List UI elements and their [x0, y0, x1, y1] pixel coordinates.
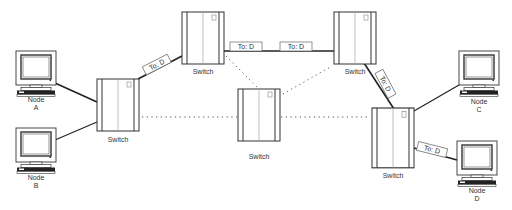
node-a-label-line2: A	[34, 104, 39, 111]
switch-top-right-label: Switch	[345, 68, 366, 75]
switch-left[interactable]: Switch	[97, 79, 139, 143]
node-c[interactable]: Node C	[459, 51, 499, 113]
computer-icon	[457, 141, 497, 187]
node-a-label-line1: Node	[28, 96, 45, 103]
switch-icon	[372, 108, 414, 168]
link-nodeA-switch-left	[55, 83, 97, 102]
packet-tag-2: To: D	[230, 42, 262, 51]
switch-icon	[238, 89, 280, 141]
node-c-label-line1: Node	[471, 98, 488, 105]
switch-bottom-right-label: Switch	[383, 172, 404, 179]
switch-icon	[182, 12, 224, 64]
node-d[interactable]: Node D	[457, 141, 497, 202]
node-a[interactable]: Node A	[16, 51, 56, 111]
switch-icon	[334, 12, 376, 64]
switch-bottom-right[interactable]: Switch	[372, 108, 414, 179]
packet-tag-3: To: D	[280, 42, 312, 51]
switch-top-left[interactable]: Switch	[182, 12, 224, 75]
node-c-label-line2: C	[476, 106, 481, 113]
dotted-link-center-topright	[283, 66, 332, 94]
link-nodeB-switch-left	[55, 122, 97, 140]
packet-tag-1: To: D	[142, 54, 171, 75]
switch-center-label: Switch	[249, 153, 270, 160]
computer-icon	[16, 128, 56, 174]
node-b[interactable]: Node B	[16, 128, 56, 189]
node-b-label-line2: B	[34, 182, 39, 189]
dotted-link-topleft-center	[226, 56, 258, 88]
switch-icon	[97, 79, 139, 131]
link-switch-bottomright-nodeC	[414, 85, 459, 111]
computer-icon	[459, 51, 499, 97]
switch-left-label: Switch	[108, 136, 129, 143]
packet-tag-label: To: D	[238, 43, 254, 50]
switch-center[interactable]: Switch	[238, 89, 280, 160]
node-d-label-line2: D	[474, 195, 479, 202]
switch-top-left-label: Switch	[193, 68, 214, 75]
computer-icon	[16, 51, 56, 97]
packet-tag-5: To: D	[416, 142, 447, 158]
packet-tag-label: To: D	[288, 43, 304, 50]
node-d-label-line1: Node	[469, 187, 486, 194]
node-b-label-line1: Node	[28, 174, 45, 181]
switch-top-right[interactable]: Switch	[334, 12, 376, 75]
network-diagram: Switch Switch Switch Switch Switch Node …	[0, 0, 512, 210]
